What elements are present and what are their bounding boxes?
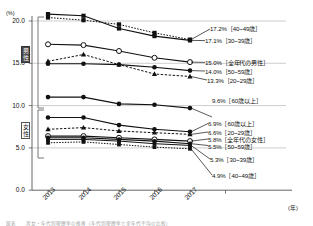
series-male-20-29 xyxy=(45,52,192,79)
end-label-male-60plus: 9.6%［60歳以上］ xyxy=(212,96,262,105)
group-label-female: 女性 xyxy=(21,122,30,139)
y-tick-5: 5.0 xyxy=(1,144,25,151)
y-tick-20: 20.0 xyxy=(1,17,25,24)
end-label-female-60plus: 6.9%［60歳以上］ xyxy=(208,119,258,128)
y-tick-10: 10.0 xyxy=(1,102,25,109)
label-leader-lines xyxy=(191,29,212,175)
end-label-female-50-59: 5.5%［50~59歳］ xyxy=(208,142,256,151)
end-label-female-30-39: 5.3%［30~39歳］ xyxy=(210,155,258,164)
series-male-60plus xyxy=(46,95,193,111)
y-tick-0: 0.0 xyxy=(1,186,25,193)
group-bracket-female xyxy=(38,110,44,158)
x-axis-unit: (年) xyxy=(288,203,298,212)
group-bracket-male xyxy=(38,17,44,108)
figure-caption: 図表 男女・年代別喫煙率の推移（年代別喫煙率と全年代平均の比較） xyxy=(6,220,307,226)
end-label-male-40-49: 17.2%［40~49歳］ xyxy=(210,24,261,33)
x-axis-ticks xyxy=(48,190,226,193)
end-label-male-30-39: 17.1%［30~39歳］ xyxy=(205,36,256,45)
chart-container: (%) 20.0 15.0 10.0 5.0 0.0 2013 2014 201… xyxy=(0,0,313,226)
group-label-male: 男性 xyxy=(21,46,30,63)
series-male-all xyxy=(46,42,193,65)
series-male-30-39 xyxy=(46,12,192,43)
end-label-male-50-59: 14.0%［50~59歳］ xyxy=(205,67,256,76)
y-axis-unit: (%) xyxy=(6,10,15,16)
end-label-female-40-49: 4.9%［40~49歳］ xyxy=(212,171,260,180)
end-label-male-20-29: 13.3%［20~29歳］ xyxy=(207,76,258,85)
